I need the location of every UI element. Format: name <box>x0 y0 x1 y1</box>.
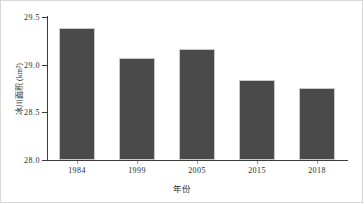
y-axis-tick-label: 28.0 <box>0 156 40 165</box>
bar <box>119 58 155 160</box>
x-axis-tick-label: 2005 <box>167 166 227 175</box>
bar <box>299 88 335 160</box>
bar-chart-figure: 28.028.529.029.5 冰川面积 (km²) 198419992005… <box>0 0 364 204</box>
y-axis-tick-label: 29.5 <box>0 13 40 22</box>
x-axis-tick-label: 1984 <box>47 166 107 175</box>
x-axis-tick-mark <box>197 161 198 164</box>
bar <box>179 49 215 160</box>
bar <box>239 80 275 160</box>
x-axis-tick-label: 2015 <box>227 166 287 175</box>
bar <box>59 28 95 161</box>
x-axis-tick-label: 1999 <box>107 166 167 175</box>
x-axis-tick-mark <box>317 161 318 164</box>
x-axis-tick-mark <box>137 161 138 164</box>
x-axis-title: 年份 <box>0 182 364 194</box>
x-axis-tick-mark <box>77 161 78 164</box>
y-axis-tick-mark <box>42 160 47 161</box>
x-axis-tick-mark <box>257 161 258 164</box>
y-axis-title: 冰川面积 (km²) <box>13 29 24 149</box>
y-axis-title-host: 冰川面积 (km²) <box>6 88 20 89</box>
bar-series-layer <box>47 17 347 160</box>
x-axis-tick-label: 2018 <box>287 166 347 175</box>
